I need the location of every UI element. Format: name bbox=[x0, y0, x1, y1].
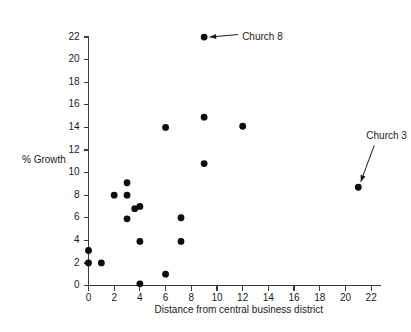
y-tick-label: 18 bbox=[68, 76, 80, 87]
y-tick-label: 10 bbox=[68, 166, 80, 177]
x-tick-label: 22 bbox=[366, 292, 378, 303]
data-point bbox=[178, 214, 185, 221]
x-tick-label: 16 bbox=[289, 292, 301, 303]
x-tick-label: 4 bbox=[137, 292, 143, 303]
y-tick-label: 8 bbox=[74, 189, 80, 200]
data-point bbox=[136, 203, 143, 210]
data-point bbox=[136, 238, 143, 245]
y-axis-title: % Growth bbox=[22, 154, 66, 165]
data-point bbox=[178, 238, 185, 245]
data-point bbox=[124, 192, 131, 199]
x-tick-label: 10 bbox=[211, 292, 223, 303]
annotations: Church 8Church 3 bbox=[210, 31, 408, 182]
x-tick-label: 6 bbox=[163, 292, 169, 303]
y-tick-label: 20 bbox=[68, 53, 80, 64]
y-tick-label: 22 bbox=[68, 31, 80, 42]
scatter-plot-figure: 0246810121416182022 0246810121416182022 … bbox=[0, 0, 411, 332]
x-axis-ticks: 0246810121416182022 bbox=[86, 286, 377, 303]
data-point bbox=[98, 260, 105, 267]
y-tick-label: 4 bbox=[74, 234, 80, 245]
data-point bbox=[111, 192, 118, 199]
data-point bbox=[162, 124, 169, 131]
data-point bbox=[355, 184, 362, 191]
x-tick-label: 2 bbox=[111, 292, 117, 303]
data-point bbox=[201, 160, 208, 167]
y-tick-label: 14 bbox=[68, 121, 80, 132]
x-tick-label: 12 bbox=[237, 292, 249, 303]
x-tick-label: 18 bbox=[314, 292, 326, 303]
axes bbox=[89, 37, 382, 285]
y-tick-label: 16 bbox=[68, 98, 80, 109]
x-tick-label: 8 bbox=[189, 292, 195, 303]
data-point bbox=[162, 271, 169, 278]
data-point bbox=[124, 215, 131, 222]
data-point bbox=[124, 179, 131, 186]
annotation-label: Church 3 bbox=[366, 130, 407, 141]
data-point bbox=[136, 280, 143, 287]
annotation-arrowhead bbox=[361, 175, 366, 182]
data-point bbox=[85, 260, 92, 267]
x-tick-label: 20 bbox=[340, 292, 352, 303]
x-tick-label: 0 bbox=[86, 292, 92, 303]
data-point bbox=[201, 114, 208, 121]
y-tick-label: 6 bbox=[74, 211, 80, 222]
y-tick-label: 12 bbox=[68, 144, 80, 155]
data-points bbox=[85, 34, 362, 288]
data-point bbox=[239, 123, 246, 130]
y-tick-label: 2 bbox=[74, 257, 80, 268]
data-point bbox=[201, 34, 208, 41]
y-tick-label: 0 bbox=[74, 279, 80, 290]
data-point bbox=[85, 247, 92, 254]
x-axis-title: Distance from central business district bbox=[155, 304, 324, 315]
annotation-label: Church 8 bbox=[242, 31, 283, 42]
plot-canvas: 0246810121416182022 0246810121416182022 … bbox=[0, 0, 411, 332]
x-tick-label: 14 bbox=[263, 292, 275, 303]
